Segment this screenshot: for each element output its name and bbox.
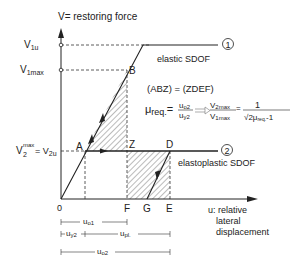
svg-text:1: 1	[255, 100, 260, 110]
dimension-upl: upl.	[85, 229, 170, 238]
x-axis-label-line2: lateral	[216, 216, 241, 226]
point-d: D	[166, 139, 173, 150]
svg-text:V1max: V1max	[210, 112, 230, 121]
svg-text:V2max: V2max	[210, 101, 230, 110]
point-e: E	[166, 203, 173, 214]
elastic-label: elastic SDOF	[157, 54, 211, 64]
tick-v1max	[59, 68, 63, 72]
marker-1-label: 1	[225, 40, 230, 50]
point-g: G	[143, 203, 151, 214]
elastoplastic-label: elastoplastic SDOF	[178, 158, 256, 168]
v1max-label: V1max	[20, 64, 44, 76]
v2-sub: 2	[23, 151, 27, 158]
v2-eq: = V2u	[35, 146, 57, 157]
svg-text:μreq.=: μreq.=	[145, 103, 173, 117]
y-axis-label: V= restoring force	[58, 11, 138, 22]
v2-sup: max	[23, 142, 34, 148]
area-equality: (ABZ) = (ZDEF)	[147, 83, 214, 94]
mu-formula: μreq.= uo2 uy2 V2max V1max = 1 √2μreq.-1	[145, 100, 290, 122]
svg-text:=: =	[236, 104, 241, 113]
x-axis-label-line3: displacement	[216, 227, 270, 237]
svg-text:uy2: uy2	[179, 111, 190, 120]
point-a: A	[76, 141, 83, 152]
tick-v1u	[59, 43, 63, 47]
v1u-label: V1u	[24, 39, 39, 51]
diagram-canvas: 1 2 V= restoring force 0 u: relative lat…	[0, 0, 301, 266]
svg-text:√2μreq.-1: √2μreq.-1	[244, 113, 274, 122]
x-axis-label-line1: u: relative	[208, 205, 247, 215]
hatch-area-zdef	[127, 151, 170, 199]
x-axis-arrow-icon	[247, 196, 258, 202]
y-axis-arrow-icon	[58, 28, 64, 38]
svg-text:uo2: uo2	[179, 101, 191, 110]
dimension-uo1: uo1	[61, 217, 127, 226]
dimension-uo2: uo2	[61, 247, 170, 256]
point-b: B	[129, 65, 136, 76]
point-z: Z	[129, 139, 135, 150]
origin-label: 0	[57, 203, 62, 213]
v2-label: V	[16, 145, 23, 156]
dimension-uy2: uy2	[61, 229, 85, 238]
marker-2-label: 2	[224, 146, 229, 156]
point-f: F	[124, 203, 130, 214]
